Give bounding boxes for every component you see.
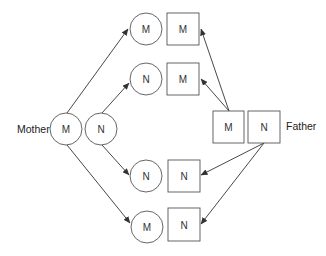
offspring-3-maternal-text: N xyxy=(142,171,149,182)
offspring-1-paternal-text: M xyxy=(179,24,187,35)
offspring-2-maternal-text: N xyxy=(142,74,149,85)
arrow-mother-m-to-offspring-1 xyxy=(67,29,128,113)
offspring-1: M M xyxy=(130,13,199,45)
mother-group: Mother M N xyxy=(17,113,117,145)
offspring-2-paternal-text: M xyxy=(179,74,187,85)
mother-allele-2-text: N xyxy=(97,124,104,135)
inheritance-diagram: Mother M N M N Father M M N M xyxy=(0,0,326,256)
father-label: Father xyxy=(286,120,317,132)
father-allele-1: M xyxy=(213,111,244,143)
father-allele-1-text: M xyxy=(224,122,232,133)
offspring-2: N M xyxy=(130,63,199,95)
father-group: M N Father xyxy=(213,111,317,143)
arrow-father-m-to-offspring-1 xyxy=(201,29,229,111)
offspring-1-maternal-text: M xyxy=(142,24,150,35)
mother-allele-1: M xyxy=(50,113,82,145)
mother-label: Mother xyxy=(17,123,50,135)
offspring-3: N N xyxy=(130,160,200,192)
arrow-mother-n-to-offspring-2 xyxy=(102,83,129,113)
offspring-4-paternal-text: N xyxy=(180,220,187,231)
arrow-mother-m-to-offspring-4 xyxy=(67,145,130,223)
father-allele-2: N xyxy=(248,111,280,143)
arrow-father-n-to-offspring-3 xyxy=(201,143,264,175)
offspring-3-paternal-text: N xyxy=(180,171,187,182)
mother-allele-1-text: M xyxy=(62,124,70,135)
arrow-father-n-to-offspring-4 xyxy=(201,143,264,224)
offspring-4-maternal-text: M xyxy=(143,222,151,233)
offspring-4: M N xyxy=(131,208,200,243)
arrow-father-m-to-offspring-2 xyxy=(201,79,229,111)
arrow-mother-n-to-offspring-3 xyxy=(102,145,129,175)
father-allele-2-text: N xyxy=(260,122,267,133)
mother-allele-2: N xyxy=(85,113,117,145)
